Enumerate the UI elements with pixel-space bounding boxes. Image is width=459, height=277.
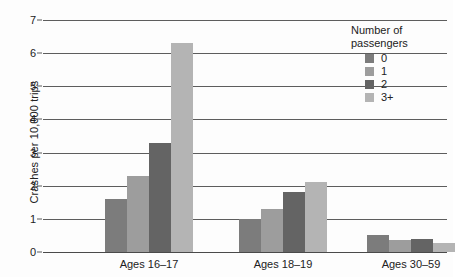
legend: Number of passengers 0123+ [341,24,449,104]
y-tick-label-1: 1 [30,213,36,224]
y-tick-label-6: 6 [30,48,36,59]
bar [389,240,411,252]
legend-item-label: 0 [381,53,387,64]
x-axis-label: Ages 18–19 [254,258,313,270]
bar [305,182,327,252]
gridline-0 [43,252,447,253]
y-tick-mark-0 [37,252,42,253]
legend-title: Number of passengers [351,24,449,50]
bar [239,219,261,252]
y-tick-label-7: 7 [30,15,36,26]
y-tick-mark-7 [37,20,42,21]
bar [149,143,171,252]
bar-group [235,20,331,252]
bar [411,239,433,252]
legend-item[interactable]: 3+ [365,91,449,104]
bar [367,235,389,252]
legend-item-list: 0123+ [365,52,449,104]
y-tick-mark-2 [37,185,42,186]
x-axis-label: Ages 30–59 [382,258,441,270]
y-tick-mark-6 [37,53,42,54]
y-tick-mark-3 [37,152,42,153]
bar [105,199,127,252]
legend-item[interactable]: 1 [365,65,449,78]
legend-item[interactable]: 2 [365,78,449,91]
y-tick-label-4: 4 [30,114,36,125]
bar [171,43,193,252]
legend-item-label: 2 [381,79,387,90]
legend-swatch-icon [365,67,374,76]
y-tick-label-5: 5 [30,81,36,92]
legend-swatch-icon [365,80,374,89]
legend-item[interactable]: 0 [365,52,449,65]
bar [261,209,283,252]
bar [283,192,305,252]
y-tick-mark-1 [37,218,42,219]
y-tick-mark-4 [37,119,42,120]
bar [433,243,455,252]
legend-swatch-icon [365,93,374,102]
legend-title-line-2: passengers [351,37,449,50]
y-tick-label-2: 2 [30,180,36,191]
legend-title-line-1: Number of [351,24,449,37]
bar-group [101,20,197,252]
y-tick-label-3: 3 [30,147,36,158]
legend-item-label: 3+ [381,92,394,103]
legend-item-label: 1 [381,66,387,77]
bar [127,176,149,252]
y-tick-mark-5 [37,86,42,87]
y-tick-label-0: 0 [30,247,36,258]
x-axis-label: Ages 16–17 [120,258,179,270]
legend-swatch-icon [365,54,374,63]
